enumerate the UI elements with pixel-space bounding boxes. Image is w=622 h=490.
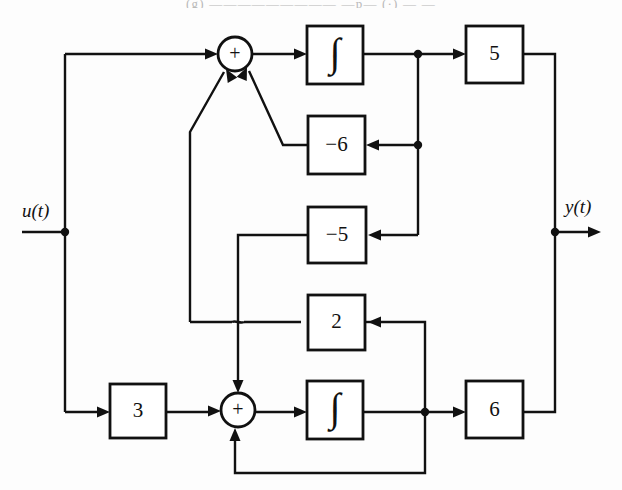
input-signal-label: u(t) [22,200,49,222]
gain-6-label: 6 [489,397,500,421]
arrow-into-gain-minus5 [368,230,381,241]
wire-gain2-to-summer-top [190,72,224,322]
arrow-into-gain3 [97,407,110,418]
arrow-into-summer-bottom-left [208,406,221,417]
wire-gain5-to-output-rail [523,54,555,232]
arrow-into-gain2 [368,317,381,328]
arrow-into-summer-top [205,49,218,60]
gain-minus-6-label: −6 [325,132,347,156]
wire-gain-minus5-to-summer-bottom [238,235,308,322]
wire-gain-minus6-to-summer-top [249,71,308,145]
block-diagram-figure: (g) ————————— —p— (·) — — [0,0,622,490]
wire-gain6-to-output-rail [523,232,555,412]
figure-caption-fragment: (g) ————————— —p— (·) — — [0,0,622,8]
arrow-into-gain5 [453,49,466,60]
arrow-into-summer-bottom-top [233,380,244,393]
gain-3-label: 3 [133,398,144,422]
summing-junction-top-sign: + [229,42,240,64]
gain-5-label: 5 [489,41,500,65]
arrow-output [588,227,601,238]
diagram-canvas: ∫ 5 −6 −5 2 3 ∫ 6 + + u(t) y(t) [0,0,622,490]
arrow-into-gain-minus6 [366,140,379,151]
junction-input-tap [61,228,69,236]
wire-integrator-bottom-tap-to-gain2 [380,322,425,412]
arrow-into-gain6 [453,407,466,418]
gain-2-label: 2 [331,309,342,333]
output-signal-label: y(t) [563,196,591,218]
arrow-into-integrator-top [294,49,307,60]
summing-junction-bottom-sign: + [232,398,243,420]
arrow-bottom-feedback-into-summer [230,428,241,441]
gain-minus-5-label: −5 [326,222,348,246]
arrow-into-integrator-bottom [294,407,307,418]
